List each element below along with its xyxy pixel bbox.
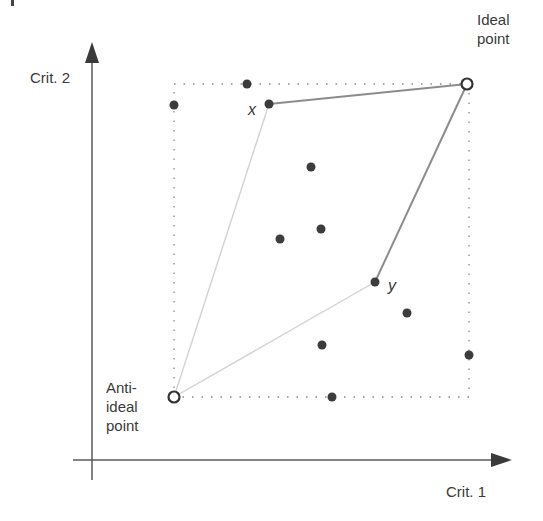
point-alternative (317, 225, 326, 234)
point-alternative (307, 163, 316, 172)
line-y-to-ideal (375, 84, 467, 282)
anti-label-line: point (106, 416, 139, 435)
decision-space-diagram (0, 0, 543, 521)
point-x (265, 100, 274, 109)
line-anti-to-x (174, 104, 269, 397)
point-y (371, 278, 380, 287)
y-axis-label: Crit. 2 (30, 68, 70, 87)
point-y-label: y (388, 276, 396, 295)
bounding-box (174, 84, 469, 397)
x-axis-label: Crit. 1 (446, 482, 486, 501)
line-anti-to-y (174, 282, 375, 397)
anti-ideal-point-label: Anti- ideal point (106, 378, 139, 435)
point-alternative (276, 235, 285, 244)
x-axis-arrow-icon (491, 453, 512, 467)
point-alternative (318, 341, 327, 350)
y-axis-arrow-icon (85, 42, 99, 63)
ideal-point-label: Ideal point (477, 10, 510, 48)
point-alternative (243, 80, 252, 89)
point-alternative (328, 393, 337, 402)
point-alternative (403, 309, 412, 318)
anti-label-line: ideal (106, 397, 139, 416)
point-alternative (170, 101, 179, 110)
line-x-to-ideal (269, 84, 467, 104)
point-x-label: x (248, 100, 256, 119)
point-alternative (465, 351, 474, 360)
ideal-label-line: point (477, 29, 510, 48)
anti-ideal-point-marker (169, 392, 180, 403)
ideal-point-marker (462, 79, 473, 90)
anti-label-line: Anti- (106, 378, 139, 397)
ideal-label-line: Ideal (477, 10, 510, 29)
